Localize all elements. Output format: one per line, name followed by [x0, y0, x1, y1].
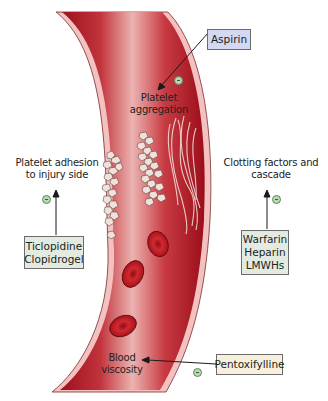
drug-box-aspirin: Aspirin — [207, 29, 251, 50]
drug-name: Warfarin — [243, 233, 287, 246]
label-clotting-factors: Clotting factors and cascade — [216, 157, 326, 181]
drug-action-diagram: Platelet aggregation Platelet adhesion t… — [0, 0, 328, 401]
drug-name: Ticlopidine — [26, 240, 82, 253]
drug-name: Heparin — [244, 246, 285, 259]
drug-box-pentoxifylline: Pentoxifylline — [216, 354, 283, 375]
drug-box-warfarin-heparin-lmwhs: Warfarin Heparin LMWHs — [241, 230, 289, 275]
label-platelet-aggregation: Platelet aggregation — [123, 92, 195, 116]
drug-name: Pentoxifylline — [215, 358, 285, 371]
inhibit-minus-icon-clotting — [272, 195, 281, 204]
inhibit-minus-icon-adhesion — [42, 195, 51, 204]
drug-name: Clopidrogel — [24, 253, 83, 266]
label-line: Platelet adhesion — [2, 157, 112, 169]
label-line: to injury side — [2, 169, 112, 181]
inhibit-minus-icon-viscosity — [193, 368, 202, 377]
label-line: aggregation — [123, 104, 195, 116]
inhibit-minus-icon-aspirin — [174, 76, 183, 85]
label-line: Clotting factors and — [216, 157, 326, 169]
drug-name: LMWHs — [246, 259, 285, 272]
label-line: viscosity — [100, 364, 144, 376]
label-blood-viscosity: Blood viscosity — [100, 352, 144, 376]
drug-box-ticlopidine-clopidrogel: Ticlopidine Clopidrogel — [24, 236, 84, 269]
label-line: Blood — [100, 352, 144, 364]
label-line: cascade — [216, 169, 326, 181]
label-line: Platelet — [123, 92, 195, 104]
vessel-lumen — [60, 12, 205, 390]
drug-name: Aspirin — [211, 33, 247, 46]
label-platelet-adhesion: Platelet adhesion to injury side — [2, 157, 112, 181]
